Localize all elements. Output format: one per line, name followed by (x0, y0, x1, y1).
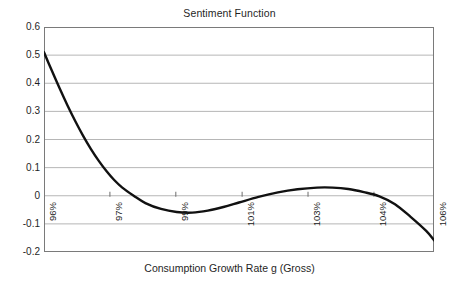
x-axis-tick-label: 104% (378, 202, 388, 226)
y-axis-tick-label: -0.1 (0, 219, 40, 229)
x-axis-title: Consumption Growth Rate g (Gross) (0, 262, 459, 274)
y-axis-tick-label: 0.2 (0, 135, 40, 145)
y-axis-tick-label: 0.1 (0, 163, 40, 173)
y-axis-tick-label: 0.5 (0, 50, 40, 60)
x-axis-tick-label: 99% (180, 202, 190, 221)
chart-title: Sentiment Function (0, 7, 459, 19)
x-axis-tick-label: 101% (246, 202, 256, 226)
y-axis-tick-label: 0.6 (0, 22, 40, 32)
y-axis-tick-label: 0 (0, 191, 40, 201)
x-axis-tick-label: 103% (312, 202, 322, 226)
chart-container: Sentiment Function 0.60.50.40.30.20.10-0… (0, 0, 459, 288)
x-axis-tick-label: 106% (438, 202, 448, 226)
x-axis-tick-labels: 96%97%99%101%103%104%106% (44, 202, 439, 252)
y-axis-tick-label: -0.2 (0, 247, 40, 257)
y-axis-tick-labels: 0.60.50.40.30.20.10-0.1-0.2 (0, 27, 40, 252)
x-axis-tick-label: 96% (48, 202, 58, 221)
x-axis-tick-label: 97% (114, 202, 124, 221)
y-axis-tick-label: 0.4 (0, 78, 40, 88)
y-axis-tick-label: 0.3 (0, 106, 40, 116)
